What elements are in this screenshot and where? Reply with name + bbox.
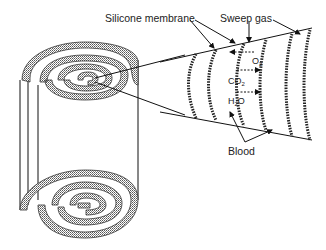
membrane-layers [189,30,311,140]
co2-label: CO2 [228,77,245,87]
h2o-label: H2O [228,97,245,107]
sweep-gas-label: Sweep gas [220,13,272,24]
blood-label: Blood [228,146,255,157]
label-arrows [190,20,300,142]
oxygenator-diagram: Silicone membrane Sweep gas Blood O2 CO2… [0,0,326,250]
silicone-membrane-label: Silicone membrane [105,13,195,24]
expanded-section [95,28,312,140]
o2-label: O2 [252,57,262,67]
diagram-graphic [0,0,326,250]
